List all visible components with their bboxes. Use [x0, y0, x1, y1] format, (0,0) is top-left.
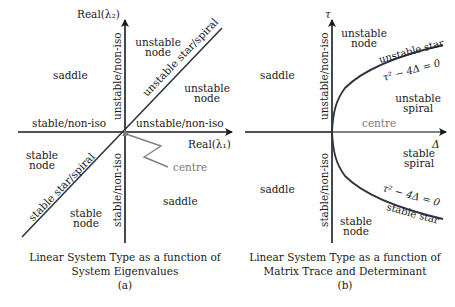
label-a-x-pos-non-iso: unstable/non-iso — [136, 117, 224, 129]
region-unstable-node-top-l2: node — [145, 46, 171, 58]
label-b-y-neg-non-iso: stable/non-iso — [318, 153, 330, 227]
panel-a-y-axis-label: Real(λ₂) — [77, 8, 120, 20]
panel-a-caption-line1: Linear System Type as a function of — [29, 251, 222, 263]
panel-b-caption-line1: Linear System Type as a function of — [249, 251, 442, 263]
region-stable-node-bottom-l2: node — [73, 217, 99, 229]
region-unstable-node-right-l2: node — [194, 92, 220, 104]
label-a-y-pos-non-iso: unstable/non-iso — [111, 32, 123, 120]
panel-b-y-axis-label: τ — [325, 8, 331, 20]
label-b-centre: centre — [362, 117, 396, 129]
panel-a-caption-tag: (a) — [118, 279, 132, 291]
region-b-stable-node-l2: node — [343, 225, 369, 237]
label-a-y-neg-non-iso: stable/non-iso — [111, 153, 123, 227]
panel-a-caption-line2: System Eigenvalues — [72, 265, 179, 277]
figure: Real(λ₂) Real(λ₁) saddle unstable node u… — [0, 0, 455, 307]
region-b-saddle-lower: saddle — [260, 183, 295, 195]
region-saddle-upper-left: saddle — [53, 69, 88, 81]
panel-b-caption-line2: Matrix Trace and Determinant — [263, 265, 427, 277]
panel-b-caption-tag: (b) — [338, 279, 353, 291]
region-b-saddle-upper: saddle — [260, 69, 295, 81]
centre-pointer-arrow — [129, 135, 168, 167]
label-a-x-neg-non-iso: stable/non-iso — [32, 117, 106, 129]
region-stable-node-left-l2: node — [29, 159, 55, 171]
region-saddle-lower-right: saddle — [163, 195, 198, 207]
region-b-unstable-node-l2: node — [351, 37, 377, 49]
panel-a-x-axis-label: Real(λ₁) — [188, 138, 231, 150]
region-stable-spiral-l2: spiral — [404, 157, 435, 169]
label-b-y-pos-non-iso: unstable/non-iso — [318, 32, 330, 120]
label-a-centre: centre — [173, 161, 207, 173]
region-unstable-spiral-l2: spiral — [403, 102, 434, 114]
panel-b-trace-determinant-diagram: τ Δ saddle saddle unstable node unstable… — [245, 8, 446, 291]
panel-a-eigenvalue-diagram: Real(λ₂) Real(λ₁) saddle unstable node u… — [18, 8, 232, 291]
